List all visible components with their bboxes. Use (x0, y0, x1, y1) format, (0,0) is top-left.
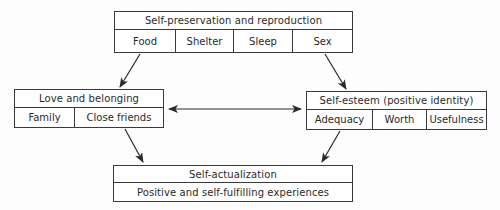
node-title: Self-actualization (189, 169, 277, 180)
item-shelter: Shelter (176, 30, 234, 52)
arrow-left-to-bottom (125, 129, 143, 162)
node-title: Love and belonging (39, 93, 139, 104)
item-usefulness: Usefulness (427, 110, 486, 129)
node-title: Self-esteem (positive identity) (320, 95, 474, 106)
item-food: Food (115, 30, 176, 52)
node-self-preservation: Self-preservation and reproduction Food … (114, 11, 353, 53)
item-adequacy: Adequacy (307, 110, 373, 129)
arrow-top-to-right (325, 54, 346, 89)
node-title: Self-preservation and reproduction (145, 15, 322, 26)
item-worth: Worth (373, 110, 427, 129)
node-title-row: Self-esteem (positive identity) (307, 92, 486, 110)
node-title-row: Self-actualization (114, 166, 352, 183)
node-subtitle: Positive and self-fulfilling experiences (137, 187, 329, 198)
item-sex: Sex (293, 30, 352, 52)
item-close-friends: Close friends (75, 108, 163, 127)
node-love-belonging: Love and belonging Family Close friends (14, 89, 164, 128)
node-self-esteem: Self-esteem (positive identity) Adequacy… (306, 91, 487, 130)
node-title-row: Self-preservation and reproduction (115, 12, 352, 30)
item-sleep: Sleep (234, 30, 293, 52)
node-self-actualization: Self-actualization Positive and self-ful… (113, 165, 353, 202)
arrow-top-to-left (120, 54, 140, 87)
node-title-row: Love and belonging (15, 90, 163, 108)
item-family: Family (15, 108, 75, 127)
arrow-right-to-bottom (322, 131, 340, 162)
